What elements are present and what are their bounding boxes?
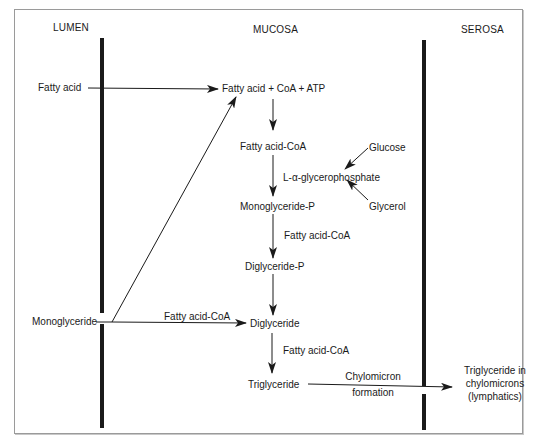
arrow-fatty-acid-uptake [88,88,218,89]
node-activation: Fatty acid + CoA + ATP [222,83,325,95]
node-glycerophosphate: L-α-glycerophosphate [283,172,380,184]
region-mucosa: MUCOSA [253,24,298,36]
arrow-monoglyceride-to-activation [112,97,236,322]
node-diglyceride: Diglyceride [250,318,299,330]
region-lumen: LUMEN [53,22,89,34]
output-line1: Triglyceride in [455,365,535,377]
node-monoglyceride-p: Monoglyceride-P [240,201,315,213]
label-chylomicron-line2: formation [338,387,408,399]
node-glycerol: Glycerol [369,201,406,213]
node-fatty-acid-coa: Fatty acid-CoA [240,141,306,153]
label-step-acyl-coa-1: Fatty acid-CoA [284,230,350,242]
label-step-acyl-coa-2: Fatty acid-CoA [283,345,349,357]
serosa-membrane [422,40,426,430]
lumen-membrane [100,38,104,428]
label-monoglyceride-path: Fatty acid-CoA [164,311,230,323]
node-diglyceride-p: Diglyceride-P [245,261,304,273]
region-serosa: SEROSA [461,24,504,36]
output-line2: chylomicrons [455,378,535,390]
label-chylomicron-line1: Chylomicron [338,371,408,383]
label-fatty-acid: Fatty acid [38,82,81,94]
node-triglyceride: Triglyceride [248,379,299,391]
label-monoglyceride: Monoglyceride [32,316,97,328]
node-glucose: Glucose [369,142,406,154]
output-line3: (lymphatics) [455,391,535,403]
arrow-glucose [345,148,368,169]
